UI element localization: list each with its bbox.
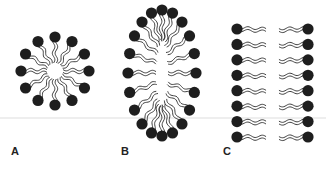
lipid-head	[231, 85, 242, 96]
lipid-head	[156, 4, 167, 15]
lipid-head	[129, 104, 140, 115]
lipid-head	[302, 116, 313, 127]
lipid-head	[83, 65, 94, 76]
lipid-head	[15, 65, 26, 76]
lipid-head	[79, 82, 90, 93]
lipid-head	[189, 87, 200, 98]
lipid-head	[79, 48, 90, 59]
lipid-head	[302, 101, 313, 112]
lipid-head	[167, 7, 178, 18]
lipid-head	[167, 127, 178, 138]
lipid-head	[124, 48, 135, 59]
lipid-head	[156, 130, 167, 141]
lipid-head	[231, 101, 242, 112]
lipid-head	[146, 127, 157, 138]
lipid-head	[32, 95, 43, 106]
lipid-head	[302, 85, 313, 96]
lipid-head	[122, 67, 133, 78]
lipid-head	[302, 39, 313, 50]
panel-label-c: C	[223, 145, 231, 157]
lipid-head	[66, 95, 77, 106]
lipid-head	[302, 131, 313, 142]
lipid-head	[124, 87, 135, 98]
lipid-head	[302, 23, 313, 34]
lipid-head	[49, 99, 60, 110]
lipid-head	[176, 16, 187, 27]
lipid-head	[231, 116, 242, 127]
lipid-head	[184, 30, 195, 41]
panel-label-b: B	[121, 145, 129, 157]
lipid-head	[302, 54, 313, 65]
lipid-head	[231, 54, 242, 65]
lipid-head	[136, 118, 147, 129]
lipid-head	[189, 48, 200, 59]
panel-label-a: A	[11, 145, 19, 157]
lipid-head	[231, 131, 242, 142]
lipid-head	[231, 23, 242, 34]
lipid-diagram	[0, 0, 326, 169]
lipid-head	[184, 104, 195, 115]
lipid-head	[302, 70, 313, 81]
lipid-head	[49, 31, 60, 42]
lipid-head	[190, 67, 201, 78]
lipid-head	[129, 30, 140, 41]
lipid-head	[20, 82, 31, 93]
lipid-head	[66, 36, 77, 47]
lipid-head	[136, 16, 147, 27]
lipid-head	[231, 39, 242, 50]
lipid-head	[176, 118, 187, 129]
lipid-head	[20, 48, 31, 59]
lipid-head	[32, 36, 43, 47]
lipid-head	[231, 70, 242, 81]
lipid-head	[146, 7, 157, 18]
